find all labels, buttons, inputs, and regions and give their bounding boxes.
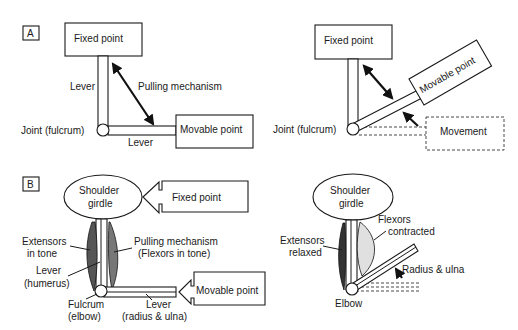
- extensors-relaxed-label-1: Extensors: [280, 235, 324, 246]
- extensors-relaxed-label-2: relaxed: [289, 247, 322, 258]
- movement-arrow: [404, 113, 418, 126]
- fixed-point-label-right: Fixed point: [324, 35, 373, 46]
- joint-circle: [97, 124, 109, 136]
- flexors-muscle: [108, 222, 117, 290]
- shoulder-label-2: girdle: [88, 198, 113, 209]
- extensors-label-2: in tone: [27, 248, 57, 259]
- panel-b-left: B Shoulder girdle Extensors in tone Pull…: [22, 175, 265, 322]
- pulling-arrow-right: [364, 66, 392, 98]
- lever-radius-label-1: Lever: [146, 299, 172, 310]
- extensors-label-1: Extensors: [22, 236, 66, 247]
- fixed-point-label: Fixed point: [74, 33, 123, 44]
- movable-point-label: Movable point: [180, 124, 242, 135]
- joint-label: Joint (fulcrum): [21, 125, 84, 136]
- panel-a-tag: A: [27, 28, 34, 39]
- panel-a-left: A Fixed point Lever Lever Joint (fulcrum…: [21, 23, 253, 148]
- vertical-lever: [98, 56, 108, 126]
- extensors-relaxed: [339, 223, 346, 290]
- fulcrum-label-2: (elbow): [68, 311, 101, 322]
- shoulder-right-label-2: girdle: [339, 198, 364, 209]
- pulling-mechanism-arrow: [113, 64, 153, 124]
- horizontal-lever: [108, 126, 176, 135]
- angled-lever: [352, 90, 422, 132]
- joint-circle-right: [347, 123, 359, 135]
- panel-b-right: Shoulder girdle Flexors contracted Exten…: [280, 174, 465, 309]
- shoulder-right-label-1: Shoulder: [330, 185, 371, 196]
- movable-point-callout-label: Movable point: [196, 285, 258, 296]
- lever-radius-label-2: (radius & ulna): [122, 311, 187, 322]
- lever-diagram: A Fixed point Lever Lever Joint (fulcrum…: [0, 0, 518, 330]
- shoulder-label-1: Shoulder: [79, 185, 120, 196]
- pulling-mechanism-label: Pulling mechanism: [138, 81, 222, 92]
- movement-label: Movement: [440, 126, 487, 137]
- elbow-label: Elbow: [335, 298, 363, 309]
- fulcrum-label-1: Fulcrum: [68, 299, 104, 310]
- joint-label-right: Joint (fulcrum): [273, 124, 336, 135]
- lever-vertical-label: Lever: [70, 81, 96, 92]
- lever-humerus-label-2: (humerus): [24, 278, 70, 289]
- panel-a-right: Fixed point Movement Movable point Joint…: [273, 25, 504, 150]
- radius-ulna-label: Radius & ulna: [402, 264, 465, 275]
- vertical-lever-right: [348, 59, 358, 128]
- flexors-label-2: contracted: [388, 226, 435, 237]
- flexors-contracted: [357, 222, 374, 276]
- lever-horizontal-label: Lever: [128, 137, 154, 148]
- extensors-muscle: [87, 222, 97, 291]
- elbow-joint-right: [346, 283, 358, 295]
- pulling-label-1: Pulling mechanism: [134, 236, 218, 247]
- shoulder-girdle: [64, 175, 142, 219]
- lever-humerus-label-1: Lever: [36, 265, 62, 276]
- pulling-label-2: (Flexors in tone): [138, 248, 210, 259]
- panel-b-tag: B: [27, 179, 34, 190]
- elbow-joint: [95, 285, 107, 297]
- flexors-label-1: Flexors: [378, 214, 411, 225]
- fixed-point-callout-label: Fixed point: [172, 192, 221, 203]
